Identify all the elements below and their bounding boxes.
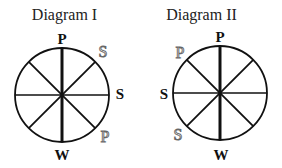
diagram-1-circle	[0, 0, 141, 168]
diagram-2-label-left: S	[160, 87, 168, 102]
diagram-2: Diagram II P P S S W	[141, 0, 282, 168]
diagram-2-label-upper-left: P	[176, 45, 185, 61]
diagram-2-label-top: P	[215, 30, 224, 45]
diagram-1-label-upper-right: S	[99, 44, 108, 60]
diagram-2-circle	[141, 0, 282, 168]
diagram-1: Diagram I P S S P W	[0, 0, 141, 168]
diagram-2-label-lower-left: S	[174, 127, 183, 143]
diagram-2-label-bottom: W	[214, 148, 229, 163]
diagram-1-label-bottom: W	[55, 148, 70, 163]
diagram-1-label-lower-right: P	[101, 129, 110, 145]
diagram-1-label-top: P	[57, 32, 66, 47]
diagram-1-label-right: S	[116, 87, 124, 102]
